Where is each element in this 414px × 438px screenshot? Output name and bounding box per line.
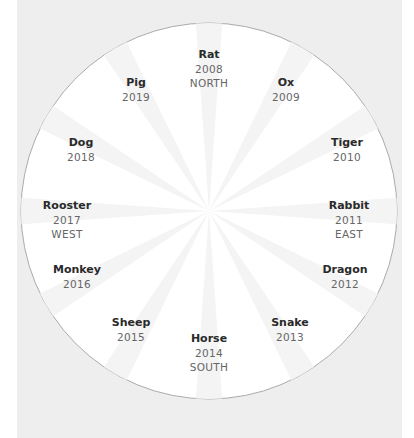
- sign-label-pig: Pig 2019: [122, 76, 150, 104]
- sign-label-rabbit: Rabbit 2011 EAST: [329, 199, 370, 241]
- sign-year: 2013: [271, 330, 309, 344]
- sign-year: 2010: [331, 150, 363, 164]
- sign-name: Sheep: [112, 316, 151, 330]
- sign-name: Tiger: [331, 136, 363, 150]
- sign-direction: SOUTH: [190, 360, 228, 374]
- sign-name: Dog: [67, 136, 95, 150]
- sign-year: 2018: [67, 150, 95, 164]
- sign-name: Rat: [190, 48, 228, 62]
- sign-direction: WEST: [43, 227, 91, 241]
- sign-year: 2016: [53, 277, 101, 291]
- sign-name: Ox: [272, 76, 300, 90]
- sign-label-monkey: Monkey 2016: [53, 263, 101, 291]
- sign-name: Snake: [271, 316, 309, 330]
- sign-label-dog: Dog 2018: [67, 136, 95, 164]
- sign-year: 2012: [322, 277, 367, 291]
- sign-name: Dragon: [322, 263, 367, 277]
- sign-year: 2009: [272, 90, 300, 104]
- sign-label-sheep: Sheep 2015: [112, 316, 151, 344]
- sign-year: 2019: [122, 90, 150, 104]
- sign-year: 2017: [43, 213, 91, 227]
- sign-label-snake: Snake 2013: [271, 316, 309, 344]
- sign-label-dragon: Dragon 2012: [322, 263, 367, 291]
- sign-name: Rooster: [43, 199, 91, 213]
- sign-name: Rabbit: [329, 199, 370, 213]
- sign-year: 2015: [112, 330, 151, 344]
- sign-label-rat: Rat 2008 NORTH: [190, 48, 228, 90]
- sign-label-ox: Ox 2009: [272, 76, 300, 104]
- sign-label-rooster: Rooster 2017 WEST: [43, 199, 91, 241]
- sign-year: 2011: [329, 213, 370, 227]
- sign-direction: EAST: [329, 227, 370, 241]
- sign-name: Pig: [122, 76, 150, 90]
- sign-year: 2014: [190, 346, 228, 360]
- sign-year: 2008: [190, 62, 228, 76]
- sign-name: Monkey: [53, 263, 101, 277]
- sign-label-horse: Horse 2014 SOUTH: [190, 332, 228, 374]
- sign-direction: NORTH: [190, 76, 228, 90]
- sign-name: Horse: [190, 332, 228, 346]
- sign-label-tiger: Tiger 2010: [331, 136, 363, 164]
